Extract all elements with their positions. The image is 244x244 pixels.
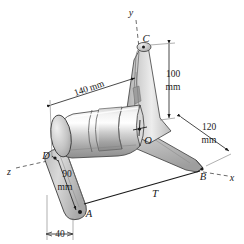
dim-label-120mm-unit: mm xyxy=(202,135,217,145)
dim-label-140mm: 140 mm xyxy=(73,78,107,98)
axis-label-z: z xyxy=(6,166,11,177)
torque-line-A-B xyxy=(84,171,200,204)
dim-label-90mm-unit: mm xyxy=(58,182,73,192)
ext-line-120mm xyxy=(206,154,231,166)
point-label-C: C xyxy=(142,33,150,44)
point-label-O: O xyxy=(144,135,152,146)
axis-label-y: y xyxy=(128,7,134,18)
dim-label-100mm-value: 100 xyxy=(166,69,181,79)
dot-A xyxy=(78,210,82,214)
ext-line-100mm-bottom xyxy=(160,118,175,120)
load-label-T: T xyxy=(152,187,159,199)
figure-canvas: y x z C O B D A 140 mm 100 mm 120 mm 90 … xyxy=(0,0,244,244)
point-label-A: A xyxy=(85,208,93,219)
x-axis-line xyxy=(203,172,228,176)
point-label-D: D xyxy=(41,150,50,161)
mechanics-diagram-svg: y x z C O B D A 140 mm 100 mm 120 mm 90 … xyxy=(0,0,244,244)
cylindrical-shaft xyxy=(48,105,144,158)
dot-D xyxy=(53,156,56,159)
dim-label-90mm-value: 90 xyxy=(62,169,72,179)
line-A-to-B xyxy=(84,171,200,204)
ext-line-100mm-top xyxy=(150,43,175,45)
axis-label-x: x xyxy=(229,172,235,183)
dim-label-100mm-unit: mm xyxy=(166,82,181,92)
dim-label-40: 40 xyxy=(55,229,65,239)
dim-label-120mm-value: 120 xyxy=(202,122,217,132)
point-label-B: B xyxy=(200,171,207,182)
